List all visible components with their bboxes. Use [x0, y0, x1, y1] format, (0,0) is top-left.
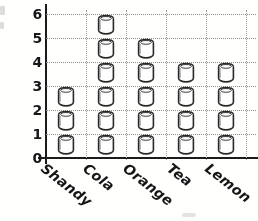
cup-icon — [175, 85, 197, 109]
cup-icon — [215, 133, 237, 157]
cup-icon — [55, 85, 77, 109]
cup-icon — [55, 109, 77, 133]
cup-icon — [135, 85, 157, 109]
x-label-tea: Tea — [164, 160, 195, 189]
plot-area — [46, 10, 256, 158]
cup-icon — [175, 133, 197, 157]
y-tick-1: 1 — [22, 127, 42, 141]
cup-icon — [95, 37, 117, 61]
column-tea — [166, 10, 206, 158]
cup-icon — [215, 61, 237, 85]
scan-artifact-top-left — [0, 6, 5, 15]
cup-icon — [135, 109, 157, 133]
cup-icon — [135, 37, 157, 61]
cup-icon — [55, 133, 77, 157]
column-cola — [86, 10, 126, 158]
pictogram-chart: 6 5 4 3 2 1 0 Shandy Cola Orange — [0, 0, 258, 221]
y-tick-4: 4 — [22, 55, 42, 69]
cup-icon — [95, 61, 117, 85]
cup-icon — [175, 61, 197, 85]
x-label-lemon: Lemon — [202, 160, 254, 206]
column-shandy — [46, 10, 86, 158]
cup-icon — [215, 85, 237, 109]
cup-icon — [215, 109, 237, 133]
y-tick-3: 3 — [22, 79, 42, 93]
cup-icon — [95, 109, 117, 133]
cup-icon — [95, 133, 117, 157]
y-tick-5: 5 — [22, 31, 42, 45]
y-axis-tick-labels: 6 5 4 3 2 1 0 — [16, 10, 42, 158]
y-tick-2: 2 — [22, 103, 42, 117]
cup-icon — [135, 61, 157, 85]
x-axis-category-labels: Shandy Cola Orange Tea Lemon — [46, 160, 258, 221]
cup-icon — [95, 85, 117, 109]
cup-icon — [135, 133, 157, 157]
column-lemon — [206, 10, 246, 158]
cup-icon — [175, 109, 197, 133]
column-orange — [126, 10, 166, 158]
cup-icon — [95, 13, 117, 37]
scan-artifact-top-left-2 — [0, 22, 4, 29]
y-tick-6: 6 — [22, 7, 42, 21]
gridline-x-5 — [246, 10, 247, 160]
